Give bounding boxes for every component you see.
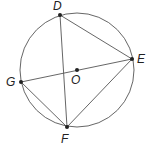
point-e xyxy=(130,57,134,61)
segment-de xyxy=(60,15,132,59)
labels: DEGFO xyxy=(6,0,146,146)
segment-gf xyxy=(21,82,67,127)
label-o: O xyxy=(71,73,80,87)
point-g xyxy=(19,80,23,84)
segment-df xyxy=(60,15,67,127)
label-e: E xyxy=(137,52,146,66)
label-d: D xyxy=(53,0,62,13)
geometry-diagram: DEGFO xyxy=(0,0,152,147)
point-o xyxy=(75,68,79,72)
label-f: F xyxy=(61,132,69,146)
point-f xyxy=(65,125,69,129)
point-d xyxy=(58,13,62,17)
label-g: G xyxy=(6,75,15,89)
